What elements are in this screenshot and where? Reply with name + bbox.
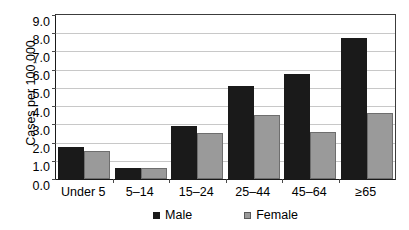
bars-layer [56, 15, 395, 179]
bar-male-5 [341, 38, 367, 179]
y-axis-tick-label: 2.0 [14, 143, 50, 156]
legend-item-female: Female [244, 208, 298, 222]
y-axis-tick-mark [52, 179, 56, 180]
bar-male-4 [284, 74, 310, 179]
x-axis-tick-mark [113, 179, 114, 183]
x-axis-tick-label: 25–44 [225, 185, 282, 200]
y-axis-tick-label: 6.0 [14, 70, 50, 83]
x-axis-tick-label: 45–64 [281, 185, 338, 200]
y-axis-tick-label: 7.0 [14, 52, 50, 65]
bar-male-1 [115, 168, 141, 179]
legend-swatch-male-icon [153, 212, 160, 219]
bar-group [228, 15, 280, 179]
y-axis-tick-label: 5.0 [14, 88, 50, 101]
bar-group [341, 15, 393, 179]
bar-group [284, 15, 336, 179]
plot-area [55, 14, 396, 180]
bar-group [115, 15, 167, 179]
bar-female-3 [254, 115, 280, 179]
x-axis-tick-mark [169, 179, 170, 183]
x-axis-tick-label: 5–14 [112, 185, 169, 200]
x-axis-tick-labels: Under 55–1415–2425–4445–64≥65 [55, 185, 396, 203]
bar-male-2 [171, 126, 197, 179]
bar-female-4 [310, 132, 336, 179]
bar-female-5 [367, 113, 393, 179]
legend-label-female: Female [256, 208, 298, 222]
x-axis-tick-mark [226, 179, 227, 183]
bar-female-1 [141, 168, 167, 179]
x-axis-tick-label: ≥65 [338, 185, 395, 200]
x-axis-tick-mark [282, 179, 283, 183]
y-axis-tick-label: 9.0 [14, 16, 50, 29]
x-axis-tick-label: Under 5 [55, 185, 112, 200]
bar-group [171, 15, 223, 179]
y-axis-tick-label: 8.0 [14, 34, 50, 47]
y-axis-tick-label: 3.0 [14, 125, 50, 138]
y-axis-tick-labels: 9.08.07.06.05.04.03.02.01.00.0 [14, 8, 50, 180]
x-axis-tick-label: 15–24 [168, 185, 225, 200]
legend-item-male: Male [153, 208, 192, 222]
legend-swatch-female-icon [244, 212, 251, 219]
bar-chart: Cases per 100,000 9.08.07.06.05.04.03.02… [0, 0, 409, 230]
y-axis-tick-label: 0.0 [14, 180, 50, 193]
y-axis-tick-label: 1.0 [14, 161, 50, 174]
bar-male-0 [58, 147, 84, 179]
bar-female-2 [197, 133, 223, 179]
chart-legend: Male Female [55, 206, 396, 224]
bar-group [58, 15, 110, 179]
bar-male-3 [228, 86, 254, 179]
bar-female-0 [84, 151, 110, 179]
y-axis-tick-label: 4.0 [14, 107, 50, 120]
legend-label-male: Male [165, 208, 192, 222]
x-axis-tick-mark [339, 179, 340, 183]
